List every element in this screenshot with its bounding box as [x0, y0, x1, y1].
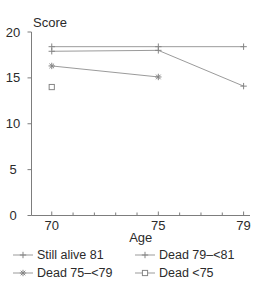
score-by-age-line-chart: 05101520707579ScoreAge [0, 0, 266, 246]
square-marker-icon [135, 268, 155, 278]
svg-text:0: 0 [9, 208, 16, 223]
legend-label: Dead 79–<81 [159, 247, 234, 263]
legend-label: Dead 75–<79 [37, 265, 112, 281]
svg-text:15: 15 [6, 70, 20, 85]
legend-label: Dead <75 [159, 265, 214, 281]
svg-text:70: 70 [45, 218, 59, 233]
svg-text:20: 20 [6, 25, 20, 40]
legend-item-dead-under-75: Dead <75 [135, 265, 261, 281]
score-by-age-figure: 05101520707579ScoreAge Still alive 81 De… [0, 0, 266, 288]
legend-item-still-alive-81: Still alive 81 [13, 247, 135, 263]
svg-text:5: 5 [9, 162, 16, 177]
legend-label: Still alive 81 [37, 247, 104, 263]
chart-legend: Still alive 81 Dead 79–<81 Dead 75–<79 D… [13, 247, 261, 281]
svg-text:79: 79 [236, 218, 250, 233]
svg-text:10: 10 [6, 116, 20, 131]
plus-marker-icon [135, 250, 155, 260]
svg-text:Age: Age [129, 230, 152, 245]
legend-item-dead-79-81: Dead 79–<81 [135, 247, 261, 263]
asterisk-marker-icon [13, 268, 33, 278]
svg-text:Score: Score [33, 15, 67, 30]
svg-text:75: 75 [151, 218, 165, 233]
plus-marker-icon [13, 250, 33, 260]
legend-item-dead-75-79: Dead 75–<79 [13, 265, 135, 281]
